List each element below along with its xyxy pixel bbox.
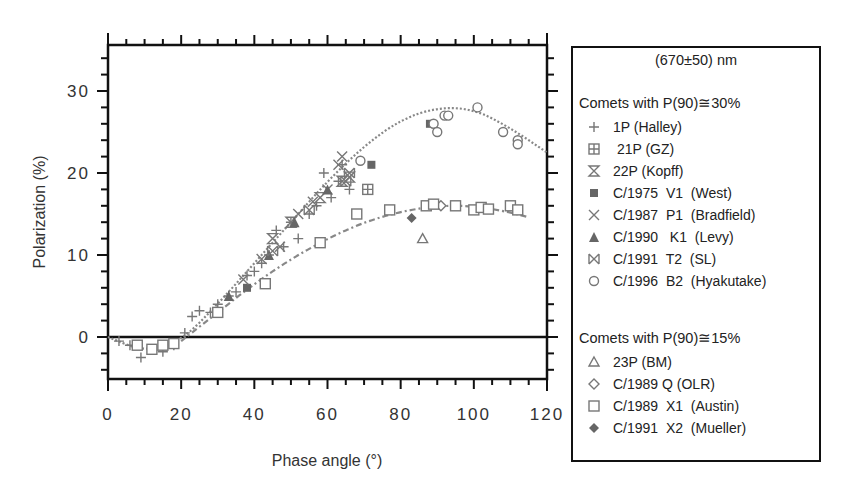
y-axis-label: Polarization (%) [31,156,48,269]
data-point [243,284,251,292]
data-point [429,199,439,209]
x-tick-label: 80 [389,405,412,424]
legend-item: 21P (GZ) [587,139,674,159]
boxed-x-icon [587,252,601,266]
legend-title: (670±50) nm [573,52,819,68]
y-tick-label: 20 [67,164,90,183]
data-point [433,128,442,137]
square-icon [587,399,601,413]
hourglass-icon [587,164,601,178]
square-plus-icon [587,142,601,156]
legend-item: C/1975 V1 (West) [587,183,732,203]
x-tick-label: 40 [243,405,266,424]
data-point [169,339,179,349]
legend-item: C/1989 X1 (Austin) [587,396,739,416]
tick-labels: 0204060801001200102030 [67,82,564,424]
legend-item-label: C/1996 B2 (Hyakutake) [613,273,766,289]
data-point [136,353,146,363]
data-point [187,312,197,322]
data-point [293,234,303,244]
legend-item-label: 23P (BM) [613,354,672,370]
legend-item: C/1989 Q (OLR) [587,374,715,394]
data-point [147,344,157,354]
data-point [473,103,482,112]
data-point [260,279,270,289]
triangle-icon [587,355,601,369]
legend-item-label: C/1975 V1 (West) [613,185,732,201]
data-point [213,307,223,317]
x-tick-label: 120 [530,405,564,424]
data-point [483,204,493,214]
data-point [513,205,523,215]
legend-item-label: C/1990 K1 (Levy) [613,229,734,245]
legend-item: C/1991 X2 (Mueller) [587,418,746,438]
legend-item-label: C/1991 T2 (SL) [613,251,716,267]
data-point [385,205,395,215]
diamond-icon [587,377,601,391]
legend-group-title-15: Comets with P(90)≅15% [579,330,740,346]
data-point [293,209,303,219]
data-point [356,156,365,165]
legend-item-label: 21P (GZ) [613,141,674,157]
data-point [367,161,375,169]
data-point [451,201,461,211]
data-point [315,238,325,248]
legend-item-label: 1P (Halley) [613,119,682,135]
legend-item: C/1990 K1 (Levy) [587,227,734,247]
circle-icon [587,274,601,288]
data-point [363,184,373,194]
filled-diamond-icon [587,421,601,435]
legend-item-label: 22P (Kopff) [613,163,683,179]
legend-item: 22P (Kopff) [587,161,683,181]
data-point [407,213,417,223]
data-point [418,234,428,243]
legend-item: C/1987 P1 (Bradfield) [587,205,755,225]
x-icon [587,208,601,222]
legend-item: 23P (BM) [587,352,672,372]
data-point [158,340,168,350]
legend-item: C/1996 B2 (Hyakutake) [587,271,766,291]
data-point [352,209,362,219]
legend-item-label: C/1989 Q (OLR) [613,376,715,392]
y-tick-label: 0 [79,328,90,347]
x-tick-label: 20 [170,405,193,424]
legend: (670±50) nm Comets with P(90)≅30% 1P (Ha… [571,46,821,462]
legend-item-label: C/1989 X1 (Austin) [613,398,739,414]
data-point [513,140,522,149]
data-point [444,111,453,120]
data-point [499,128,508,137]
filled-triangle-icon [587,230,601,244]
filled-square-icon [587,186,601,200]
x-axis-label: Phase angle (°) [272,452,382,469]
data-point [132,340,142,350]
legend-item-label: C/1987 P1 (Bradfield) [613,207,755,223]
x-tick-label: 60 [316,405,339,424]
plus-icon [587,120,601,134]
data-points [114,103,523,363]
legend-item-label: C/1991 X2 (Mueller) [613,420,746,436]
x-tick-label: 100 [457,405,491,424]
data-point [319,168,329,178]
legend-item: C/1991 T2 (SL) [587,249,716,269]
fit-curves [108,108,547,349]
legend-item: 1P (Halley) [587,117,682,137]
data-point [194,306,204,316]
y-tick-label: 30 [67,82,90,101]
x-tick-label: 0 [102,405,113,424]
y-tick-label: 10 [67,246,90,265]
legend-group-title-30: Comets with P(90)≅30% [579,95,740,111]
